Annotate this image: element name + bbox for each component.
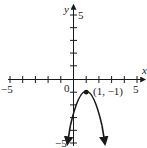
vertex-label: (1, −1) <box>93 85 123 98</box>
y-max-label: 5 <box>78 9 84 21</box>
y-axis-label: y <box>63 3 69 15</box>
origin-label: 0 <box>64 82 70 94</box>
x-axis-label: x <box>141 64 147 76</box>
parabola-right-arrow <box>102 126 105 145</box>
x-min-label: −5 <box>1 83 13 95</box>
parabola-left-arrow <box>67 126 70 145</box>
vertex-point <box>84 90 89 95</box>
x-max-label: 5 <box>133 83 139 95</box>
parabola-graph: x −5 5 y 5 −5 0 (1, −1) <box>0 0 147 148</box>
y-min-label: −5 <box>55 137 67 148</box>
